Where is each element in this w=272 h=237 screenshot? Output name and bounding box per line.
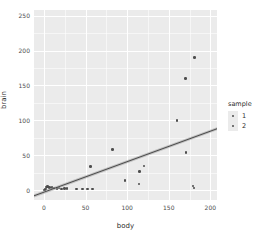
x-tick-label: 150 — [154, 204, 184, 211]
legend-point-icon — [228, 111, 238, 121]
y-tick-label: 250 — [8, 12, 30, 19]
plot-panel — [34, 10, 217, 200]
y-tick-label: 50 — [8, 152, 30, 159]
y-tick-label: 0 — [8, 187, 30, 194]
legend-point-icon — [228, 121, 238, 131]
legend-item[interactable]: 1 — [228, 111, 272, 121]
x-tick-label: 50 — [71, 204, 101, 211]
x-tick-label: 0 — [29, 204, 59, 211]
legend: sample 12 — [228, 100, 272, 131]
legend-items: 12 — [228, 111, 272, 131]
y-tick-label: 200 — [8, 47, 30, 54]
y-tick-label: 150 — [8, 82, 30, 89]
fit-line — [34, 129, 217, 196]
legend-item-label: 1 — [242, 112, 246, 120]
x-axis-title: body — [0, 222, 251, 230]
chart-figure: 050100150200250 050100150200 body brain … — [0, 0, 272, 237]
x-tick-label: 100 — [112, 204, 142, 211]
legend-title: sample — [228, 100, 272, 108]
regression-line-layer — [34, 10, 217, 200]
legend-item[interactable]: 2 — [228, 121, 272, 131]
y-axis-title: brain — [0, 80, 8, 120]
legend-item-label: 2 — [242, 122, 246, 130]
y-tick-label: 100 — [8, 117, 30, 124]
x-tick-label: 200 — [195, 204, 225, 211]
